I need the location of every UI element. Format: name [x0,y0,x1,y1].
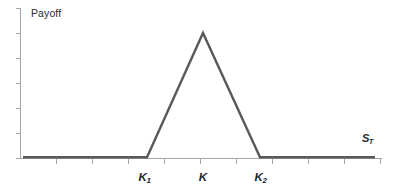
x-axis-title: ST [362,133,374,144]
x-tick-label-k1: K1 [139,172,152,184]
k-main: K [199,171,207,183]
chart-canvas [0,0,399,195]
x-tick-label-k: K [199,172,207,184]
x-tick-label-k2: K2 [255,172,268,184]
k2-subscript: 2 [262,176,266,185]
butterfly-payoff-chart: Payoff ST K1 K K2 [0,0,399,195]
payoff-line [23,33,375,157]
x-axis-ticks [57,159,381,165]
y-axis-title: Payoff [31,8,61,19]
y-axis-ticks [16,9,21,159]
x-axis-title-subscript: T [369,137,374,146]
k1-subscript: 1 [146,176,150,185]
